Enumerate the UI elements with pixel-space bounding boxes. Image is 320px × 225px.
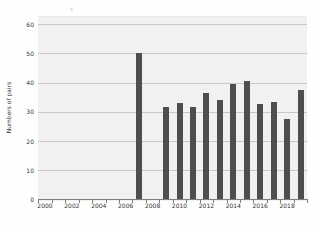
gridline-10 bbox=[38, 170, 307, 171]
plot-background bbox=[38, 16, 307, 201]
bar-2019 bbox=[298, 90, 304, 200]
x-tick-label-2000: 2000 bbox=[30, 202, 60, 209]
bar-chart-figure: Numbers of pairs 0102030405060 200020022… bbox=[0, 0, 320, 225]
x-tick-label-2010: 2010 bbox=[165, 202, 195, 209]
y-tick-label-20: 20 bbox=[16, 138, 34, 145]
x-tick-label-2014: 2014 bbox=[218, 202, 248, 209]
bar-2015 bbox=[244, 81, 250, 200]
bar-2016 bbox=[257, 104, 263, 200]
y-tick-label-40: 40 bbox=[16, 79, 34, 86]
bar-2011 bbox=[190, 107, 196, 200]
y-tick-label-60: 60 bbox=[16, 21, 34, 28]
bar-2007 bbox=[136, 53, 142, 200]
bar-2018 bbox=[284, 119, 290, 200]
plot-area: 2000200220042006200820102012201420162018 bbox=[38, 0, 307, 212]
bar-2013 bbox=[217, 100, 223, 200]
x-tick-label-2004: 2004 bbox=[84, 202, 114, 209]
x-tick-label-2016: 2016 bbox=[245, 202, 275, 209]
bar-2012 bbox=[203, 93, 209, 200]
gridline-60 bbox=[38, 24, 307, 25]
y-axis-title: Numbers of pairs bbox=[5, 76, 12, 140]
gridline-20 bbox=[38, 141, 307, 142]
x-tick-label-2002: 2002 bbox=[57, 202, 87, 209]
x-tick-label-2008: 2008 bbox=[138, 202, 168, 209]
gridline-50 bbox=[38, 53, 307, 54]
x-tick-label-2006: 2006 bbox=[111, 202, 141, 209]
x-tick-label-2012: 2012 bbox=[191, 202, 221, 209]
x-tick-label-2018: 2018 bbox=[272, 202, 302, 209]
y-tick-label-30: 30 bbox=[16, 108, 34, 115]
gridline-40 bbox=[38, 83, 307, 84]
y-tick-label-10: 10 bbox=[16, 167, 34, 174]
bar-2014 bbox=[230, 84, 236, 200]
gridline-30 bbox=[38, 112, 307, 113]
bar-2017 bbox=[271, 102, 277, 200]
bar-2009 bbox=[163, 107, 169, 200]
x-axis-tick bbox=[307, 200, 308, 203]
y-tick-label-50: 50 bbox=[16, 50, 34, 57]
bar-2010 bbox=[177, 103, 183, 200]
